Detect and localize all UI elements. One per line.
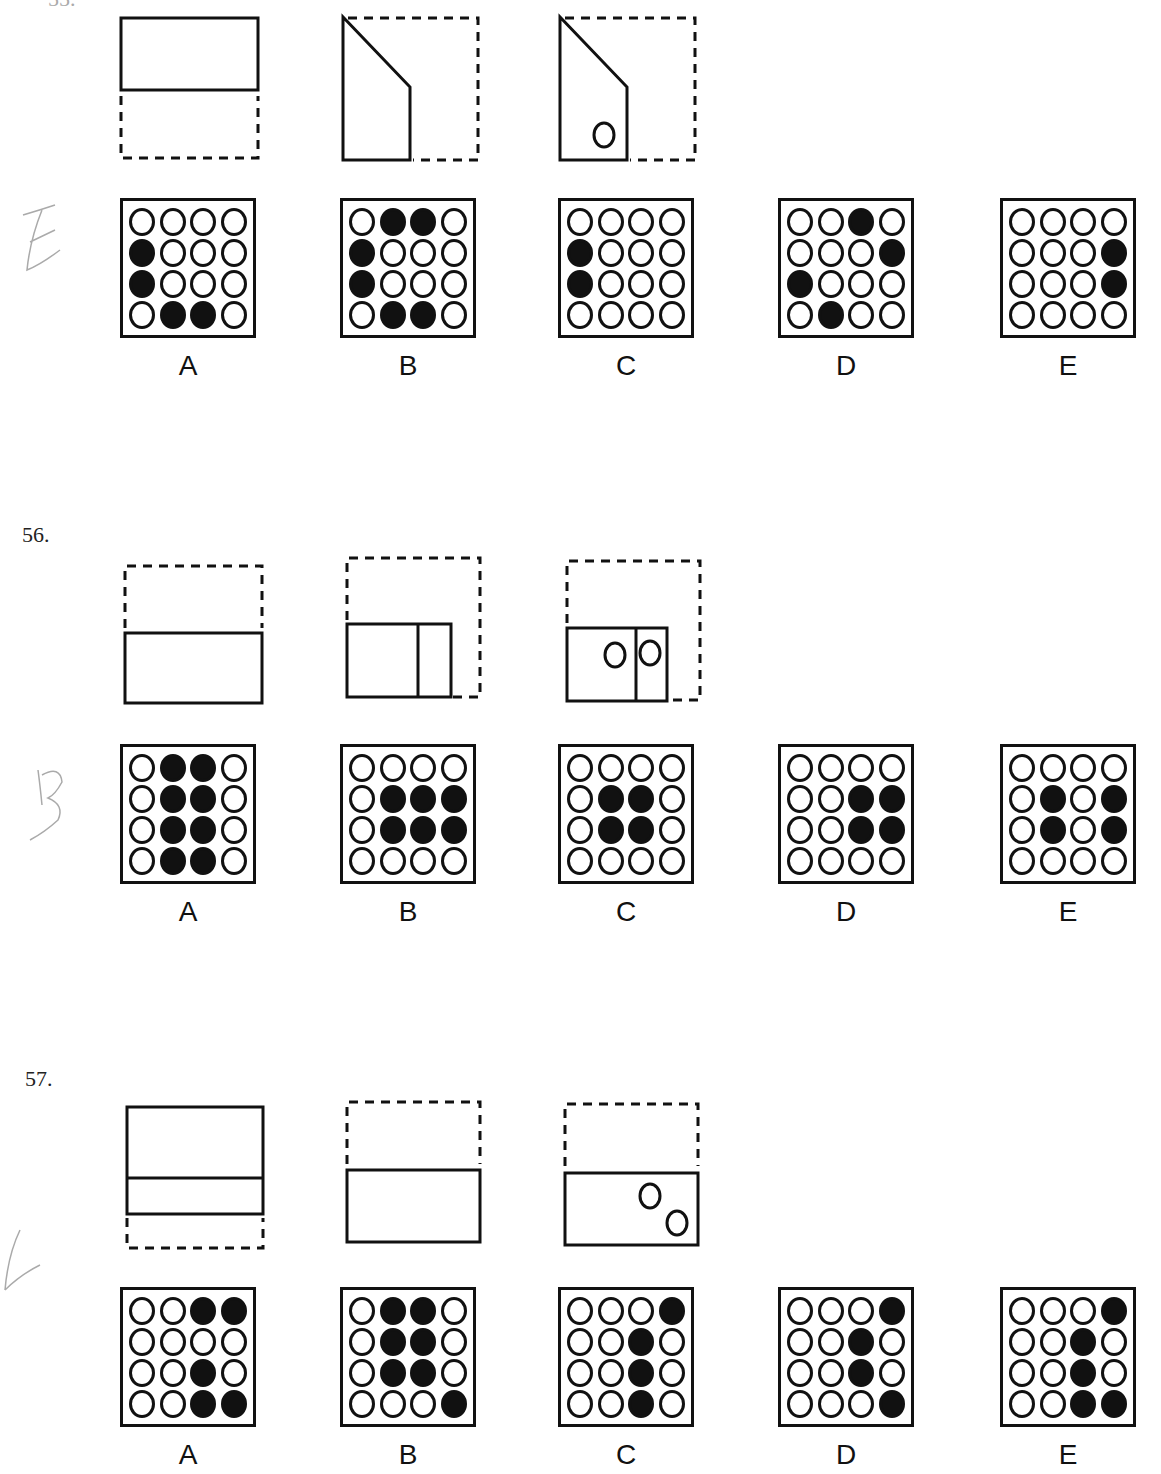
empty-hole-icon xyxy=(879,1359,905,1387)
empty-hole-icon xyxy=(441,1359,467,1387)
empty-hole-icon xyxy=(787,1359,813,1387)
empty-hole-icon xyxy=(441,301,467,329)
empty-hole-icon xyxy=(567,1297,593,1325)
filled-hole-icon xyxy=(190,816,216,844)
filled-hole-icon xyxy=(1101,1390,1127,1418)
empty-hole-icon xyxy=(160,208,186,236)
empty-hole-icon xyxy=(879,208,905,236)
empty-hole-icon xyxy=(129,785,155,813)
empty-hole-icon xyxy=(1009,754,1035,782)
filled-hole-icon xyxy=(879,816,905,844)
filled-hole-icon xyxy=(659,1297,685,1325)
empty-hole-icon xyxy=(1009,1328,1035,1356)
empty-hole-icon xyxy=(1040,301,1066,329)
filled-hole-icon xyxy=(1101,816,1127,844)
q55-fold-step-1 xyxy=(115,12,265,164)
answer-option-a[interactable] xyxy=(120,744,256,884)
empty-hole-icon xyxy=(818,270,844,298)
empty-hole-icon xyxy=(818,785,844,813)
option-label: E xyxy=(1048,1439,1088,1471)
filled-hole-icon xyxy=(380,785,406,813)
empty-hole-icon xyxy=(818,239,844,267)
empty-hole-icon xyxy=(349,847,375,875)
filled-hole-icon xyxy=(160,785,186,813)
filled-hole-icon xyxy=(190,847,216,875)
filled-hole-icon xyxy=(628,785,654,813)
empty-hole-icon xyxy=(441,208,467,236)
option-label: A xyxy=(168,1439,208,1471)
filled-hole-icon xyxy=(380,816,406,844)
answer-option-c[interactable] xyxy=(558,744,694,884)
empty-hole-icon xyxy=(160,1390,186,1418)
empty-hole-icon xyxy=(818,1359,844,1387)
filled-hole-icon xyxy=(160,816,186,844)
empty-hole-icon xyxy=(848,301,874,329)
empty-hole-icon xyxy=(659,847,685,875)
answer-option-d[interactable] xyxy=(778,744,914,884)
answer-option-b[interactable] xyxy=(340,744,476,884)
filled-hole-icon xyxy=(1040,816,1066,844)
empty-hole-icon xyxy=(818,1390,844,1418)
empty-hole-icon xyxy=(160,1328,186,1356)
filled-hole-icon xyxy=(879,239,905,267)
option-label: D xyxy=(826,1439,866,1471)
empty-hole-icon xyxy=(221,754,247,782)
option-label: B xyxy=(388,350,428,382)
filled-hole-icon xyxy=(380,1359,406,1387)
q57-fold-step-2 xyxy=(340,1096,490,1248)
handwritten-answer-q57 xyxy=(0,1225,60,1295)
empty-hole-icon xyxy=(190,239,216,267)
empty-hole-icon xyxy=(567,1390,593,1418)
filled-hole-icon xyxy=(628,816,654,844)
answer-option-e[interactable] xyxy=(1000,198,1136,338)
partial-question-number: 55. xyxy=(48,0,76,12)
empty-hole-icon xyxy=(628,301,654,329)
empty-hole-icon xyxy=(190,270,216,298)
filled-hole-icon xyxy=(598,785,624,813)
empty-hole-icon xyxy=(628,239,654,267)
answer-option-b[interactable] xyxy=(340,1287,476,1427)
filled-hole-icon xyxy=(410,1297,436,1325)
empty-hole-icon xyxy=(1101,1359,1127,1387)
filled-hole-icon xyxy=(1101,1297,1127,1325)
filled-hole-icon xyxy=(380,1328,406,1356)
q57-fold-step-1 xyxy=(120,1100,270,1252)
empty-hole-icon xyxy=(1040,239,1066,267)
empty-hole-icon xyxy=(349,1359,375,1387)
answer-option-e[interactable] xyxy=(1000,744,1136,884)
filled-hole-icon xyxy=(1101,239,1127,267)
filled-hole-icon xyxy=(1101,270,1127,298)
empty-hole-icon xyxy=(567,1328,593,1356)
empty-hole-icon xyxy=(659,301,685,329)
empty-hole-icon xyxy=(1009,1297,1035,1325)
empty-hole-icon xyxy=(1040,1297,1066,1325)
answer-option-b[interactable] xyxy=(340,198,476,338)
option-label: B xyxy=(388,1439,428,1471)
empty-hole-icon xyxy=(787,301,813,329)
filled-hole-icon xyxy=(410,816,436,844)
handwritten-answer-q56 xyxy=(20,760,80,850)
answer-option-a[interactable] xyxy=(120,198,256,338)
answer-option-e[interactable] xyxy=(1000,1287,1136,1427)
empty-hole-icon xyxy=(818,754,844,782)
empty-hole-icon xyxy=(1070,239,1096,267)
option-label: C xyxy=(606,1439,646,1471)
empty-hole-icon xyxy=(598,270,624,298)
answer-option-c[interactable] xyxy=(558,198,694,338)
empty-hole-icon xyxy=(787,785,813,813)
empty-hole-icon xyxy=(380,270,406,298)
answer-option-a[interactable] xyxy=(120,1287,256,1427)
empty-hole-icon xyxy=(129,1328,155,1356)
answer-option-d[interactable] xyxy=(778,198,914,338)
empty-hole-icon xyxy=(441,754,467,782)
empty-hole-icon xyxy=(598,1359,624,1387)
answer-option-d[interactable] xyxy=(778,1287,914,1427)
filled-hole-icon xyxy=(129,239,155,267)
filled-hole-icon xyxy=(190,785,216,813)
filled-hole-icon xyxy=(848,1359,874,1387)
filled-hole-icon xyxy=(410,785,436,813)
empty-hole-icon xyxy=(129,208,155,236)
empty-hole-icon xyxy=(1070,208,1096,236)
answer-option-c[interactable] xyxy=(558,1287,694,1427)
empty-hole-icon xyxy=(380,239,406,267)
